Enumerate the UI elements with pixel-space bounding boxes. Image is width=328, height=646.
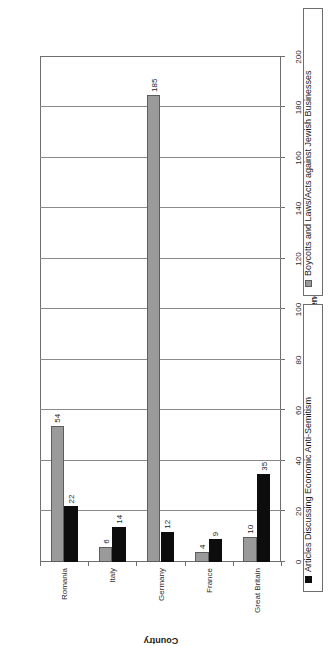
category-label: Romania xyxy=(60,568,69,624)
category-label: Germany xyxy=(156,568,165,624)
category-axis-tick xyxy=(40,562,41,566)
gray-square-icon xyxy=(305,280,312,287)
value-axis-tick-label: 0 xyxy=(294,560,303,564)
bar-value-label: 9 xyxy=(211,532,220,536)
bar-value-label: 35 xyxy=(259,462,268,471)
bar-value-label: 22 xyxy=(66,495,75,504)
value-axis-tick-label: 120 xyxy=(294,252,303,265)
bar-great-britain-series-0 xyxy=(257,474,270,562)
bar-italy-series-0 xyxy=(112,527,125,562)
bar-value-label: 185 xyxy=(149,79,158,92)
value-axis-tick-label: 40 xyxy=(294,457,303,466)
value-axis-tick xyxy=(281,309,285,310)
value-axis-tick-label: 60 xyxy=(294,406,303,415)
bar-value-label: 54 xyxy=(53,414,62,423)
bar-romania-series-0 xyxy=(64,506,77,562)
gridline xyxy=(40,258,281,259)
category-axis-tick xyxy=(88,562,89,566)
category-axis-tick xyxy=(136,562,137,566)
legend-entry-articles: Articles Discussing Economic Anti-Semiti… xyxy=(303,397,313,583)
category-axis-tick xyxy=(233,562,234,566)
category-axis-tick xyxy=(185,562,186,566)
gridline xyxy=(40,460,281,461)
value-axis-tick-label: 140 xyxy=(294,202,303,215)
legend-label-boycotts: Boycotts and Laws/Acts against Jewish Bu… xyxy=(303,70,313,276)
gridline xyxy=(40,309,281,310)
value-axis-tick-label: 200 xyxy=(294,50,303,63)
value-axis-tick xyxy=(281,258,285,259)
value-axis-tick-label: 80 xyxy=(294,356,303,365)
chart-plot-area: 020406080100120140160180200 351094121851… xyxy=(40,57,281,562)
value-axis-tick xyxy=(281,208,285,209)
gridline xyxy=(40,56,281,57)
value-axis-tick xyxy=(281,410,285,411)
value-axis-tick xyxy=(281,107,285,108)
bar-great-britain-series-1 xyxy=(243,537,256,562)
category-label: Italy xyxy=(108,568,117,624)
value-axis-tick-label: 180 xyxy=(294,101,303,114)
category-axis-title: Country xyxy=(143,636,178,646)
legend-entry-boycotts: Boycotts and Laws/Acts against Jewish Bu… xyxy=(303,70,313,287)
bar-germany-series-1 xyxy=(147,95,160,562)
gridline xyxy=(40,359,281,360)
bar-value-label: 4 xyxy=(197,544,206,548)
value-axis-tick xyxy=(281,359,285,360)
value-axis-tick-label: 100 xyxy=(294,303,303,316)
bar-value-label: 14 xyxy=(115,515,124,524)
value-axis-tick xyxy=(281,460,285,461)
value-axis-tick xyxy=(281,511,285,512)
category-axis-tick xyxy=(281,562,282,566)
bar-france-series-1 xyxy=(195,552,208,562)
bar-romania-series-1 xyxy=(51,426,64,562)
bar-france-series-0 xyxy=(209,539,222,562)
legend-label-articles: Articles Discussing Economic Anti-Semiti… xyxy=(303,397,313,572)
category-label: Great Britain xyxy=(252,568,261,624)
gridline xyxy=(40,107,281,108)
black-square-icon xyxy=(305,576,312,583)
plot-frame xyxy=(40,57,281,562)
legend-box-articles: Articles Discussing Economic Anti-Semiti… xyxy=(303,304,323,592)
gridline xyxy=(40,410,281,411)
bar-value-label: 12 xyxy=(163,520,172,529)
category-label: France xyxy=(204,568,213,624)
value-axis-tick-label: 20 xyxy=(294,507,303,516)
bar-germany-series-0 xyxy=(161,532,174,562)
bar-value-label: 10 xyxy=(246,525,255,534)
value-axis-tick-label: 160 xyxy=(294,151,303,164)
value-axis-tick xyxy=(281,56,285,57)
value-axis-tick xyxy=(281,157,285,158)
bar-italy-series-1 xyxy=(99,547,112,562)
bar-value-label: 6 xyxy=(101,539,110,543)
legend-box-boycotts: Boycotts and Laws/Acts against Jewish Bu… xyxy=(303,8,323,296)
gridline xyxy=(40,208,281,209)
gridline xyxy=(40,157,281,158)
